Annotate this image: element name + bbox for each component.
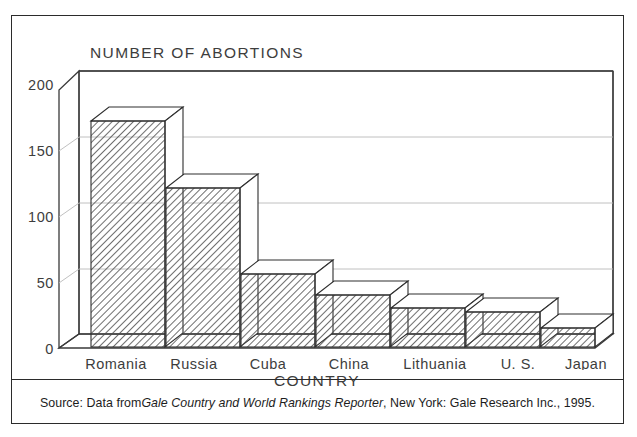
source-note: Source: Data from Gale Country and World… xyxy=(12,384,623,422)
xtick-label-china: China xyxy=(329,356,370,370)
xtick-label-romania: Romania xyxy=(85,356,147,370)
ytick-label-0: 0 xyxy=(45,341,54,357)
ytick-label-100: 100 xyxy=(28,209,54,225)
figure-frame: NUMBER OF ABORTIONS 200 150 100 50 0 Rom… xyxy=(11,15,624,424)
xtick-label-us: U. S. xyxy=(501,356,536,370)
xtick-label-lithuania: Lithuania xyxy=(403,356,467,370)
source-title: Gale Country and World Rankings Reporter xyxy=(141,396,383,410)
chart-plot-area: NUMBER OF ABORTIONS 200 150 100 50 0 Rom… xyxy=(12,16,623,370)
xtick-label-cuba: Cuba xyxy=(250,356,287,370)
xtick-label-japan: Japan xyxy=(565,356,607,370)
bar-japan[interactable] xyxy=(541,314,613,347)
figure-container: NUMBER OF ABORTIONS 200 150 100 50 0 Rom… xyxy=(0,0,637,437)
ytick-label-150: 150 xyxy=(28,143,54,159)
bar-chart-svg: NUMBER OF ABORTIONS 200 150 100 50 0 Rom… xyxy=(12,16,623,370)
chart-title: NUMBER OF ABORTIONS xyxy=(90,44,304,61)
ytick-label-50: 50 xyxy=(37,275,54,291)
ytick-label-200: 200 xyxy=(28,77,54,93)
source-suffix: , New York: Gale Research Inc., 1995. xyxy=(383,396,595,410)
source-prefix: Source: Data from xyxy=(40,396,141,410)
xtick-label-russia: Russia xyxy=(170,356,218,370)
source-divider xyxy=(12,379,623,380)
